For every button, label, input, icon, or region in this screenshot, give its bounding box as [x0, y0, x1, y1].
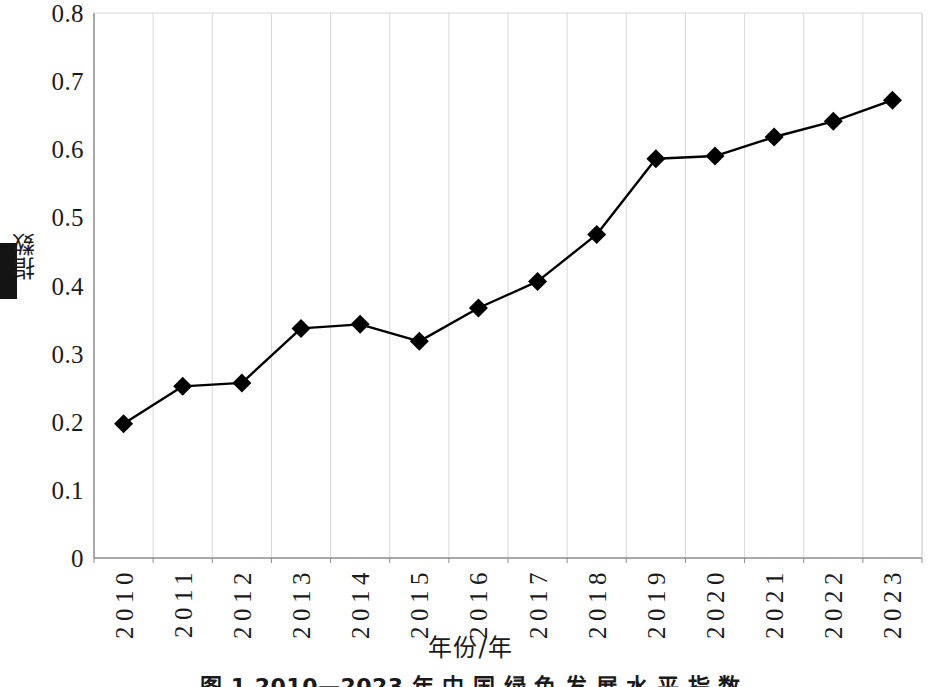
y-axis-tick-label: 0.3: [26, 342, 84, 367]
data-point-marker: [173, 377, 192, 396]
y-axis-tick-label: 0.8: [26, 1, 84, 26]
data-point-marker: [765, 127, 784, 146]
y-axis-tick-label: 0.5: [26, 205, 84, 230]
y-axis-tick-label: 0.7: [26, 69, 84, 94]
y-axis-tick-label: 0.2: [26, 410, 84, 435]
y-axis-tick-label: 0: [26, 546, 84, 571]
data-point-marker: [883, 91, 902, 110]
data-point-marker: [114, 414, 133, 433]
data-point-marker: [706, 147, 725, 166]
y-axis-tick-label: 0.1: [26, 478, 84, 503]
chart-gridlines: [94, 13, 922, 558]
figure-caption: 图 1 2010—2023 年 中 国 绿 色 发 展 水 平 指 数: [0, 668, 941, 687]
figure-chart: 00.10.20.30.40.50.60.70.8 20102011201220…: [0, 0, 941, 687]
data-point-marker: [410, 332, 429, 351]
data-point-marker: [469, 298, 488, 317]
x-axis-title: 年份/年: [0, 628, 941, 663]
data-point-marker: [824, 112, 843, 131]
data-point-marker: [351, 315, 370, 334]
y-axis-title: 指数: [8, 232, 42, 280]
y-axis-tick-label: 0.6: [26, 137, 84, 162]
